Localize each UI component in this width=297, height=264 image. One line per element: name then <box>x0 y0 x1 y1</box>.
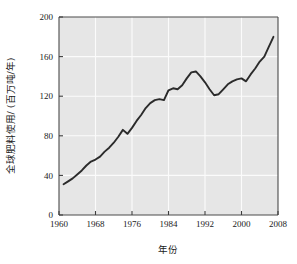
x-tick-label: 1976 <box>123 219 142 229</box>
y-tick-label: 0 <box>49 210 54 220</box>
x-tick-label: 2008 <box>269 219 288 229</box>
y-tick-label: 120 <box>40 91 54 101</box>
y-tick-label: 40 <box>44 171 54 181</box>
line-chart: 1960196819761984199220002008 04080120160… <box>0 0 297 264</box>
y-axis-title: 全球肥料使用/ (百万吨/年) <box>5 58 16 175</box>
y-tick-label: 80 <box>44 131 54 141</box>
x-tick-label: 1968 <box>87 219 106 229</box>
y-tick-label: 200 <box>40 12 54 22</box>
chart-figure: 1960196819761984199220002008 04080120160… <box>0 0 297 264</box>
x-tick-label: 2000 <box>233 219 252 229</box>
x-tick-label: 1992 <box>196 219 214 229</box>
y-tick-label: 160 <box>40 52 54 62</box>
x-axis-title: 年份 <box>158 244 178 255</box>
x-tick-label: 1984 <box>160 219 179 229</box>
x-tick-label: 1960 <box>50 219 69 229</box>
